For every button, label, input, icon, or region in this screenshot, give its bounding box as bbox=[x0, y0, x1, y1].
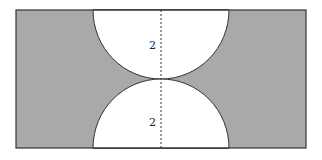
diagram-canvas: 2 2 bbox=[0, 0, 322, 160]
top-radius-label: 2 bbox=[149, 39, 156, 52]
bottom-radius-label: 2 bbox=[149, 116, 156, 129]
